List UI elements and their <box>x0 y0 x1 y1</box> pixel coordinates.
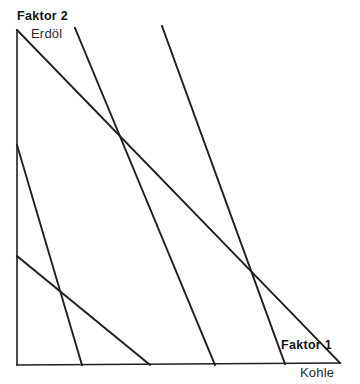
diagram-canvas <box>0 0 360 384</box>
x-axis-resource-label: Kohle <box>300 366 334 379</box>
y-axis-factor-label: Faktor 2 <box>17 10 68 23</box>
x-axis-factor-label: Faktor 1 <box>281 339 332 352</box>
isoquant-line-4 <box>162 26 285 364</box>
isoquant-diagram: Faktor 2 Erdöl Faktor 1 Kohle <box>0 0 360 384</box>
x-axis-line <box>17 363 340 365</box>
isoquant-line-outer <box>17 30 340 363</box>
isoquant-line-1 <box>17 145 82 365</box>
y-axis-resource-label: Erdöl <box>31 27 62 40</box>
isoquant-line-3 <box>75 28 215 365</box>
isoquant-line-2 <box>17 256 150 365</box>
